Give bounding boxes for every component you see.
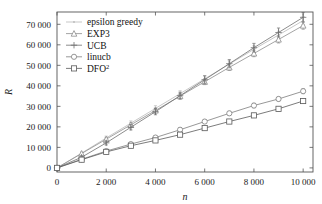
x-tick-label: 2 000 bbox=[96, 177, 117, 187]
marker-square bbox=[251, 113, 256, 118]
y-tick-labels: 010 00020 00030 00040 00050 00060 00070 … bbox=[26, 20, 51, 174]
chart-legend: epsilon greedyEXP3UCBlinucbDFO2 bbox=[66, 17, 143, 73]
legend-item-linucb: linucb bbox=[66, 52, 111, 62]
legend-label: epsilon greedy bbox=[87, 17, 143, 27]
y-tick-label: 30 000 bbox=[26, 102, 51, 112]
marker-plus bbox=[300, 14, 306, 20]
x-tick-label: 0 bbox=[55, 177, 60, 187]
marker-square bbox=[276, 106, 281, 111]
marker-square bbox=[202, 126, 207, 131]
legend-label: DFO2 bbox=[87, 63, 109, 74]
legend-label: EXP3 bbox=[87, 29, 110, 39]
marker-square bbox=[177, 132, 182, 137]
y-tick-label: 50 000 bbox=[26, 61, 51, 71]
y-tick-label: 40 000 bbox=[26, 81, 51, 91]
marker-square bbox=[71, 66, 76, 71]
x-axis-title: n bbox=[183, 191, 188, 202]
series-dfo2 bbox=[54, 98, 305, 170]
marker-square bbox=[79, 157, 84, 162]
marker-square bbox=[153, 138, 158, 143]
marker-circle bbox=[71, 54, 76, 59]
x-tick-label: 8 000 bbox=[244, 177, 265, 187]
marker-plus bbox=[275, 29, 281, 35]
marker-plus bbox=[71, 42, 77, 48]
y-tick-label: 70 000 bbox=[26, 20, 51, 30]
legend-label-superscript: 2 bbox=[106, 63, 109, 70]
x-tick-label: 6 000 bbox=[195, 177, 216, 187]
series-linucb bbox=[54, 89, 305, 171]
marker-square bbox=[54, 165, 59, 170]
marker-circle bbox=[276, 96, 281, 101]
chart-canvas: 010 00020 00030 00040 00050 00060 00070 … bbox=[0, 0, 322, 204]
marker-dot bbox=[73, 21, 75, 23]
legend-label: UCB bbox=[87, 41, 107, 51]
legend-item-epsilon-greedy: epsilon greedy bbox=[66, 17, 143, 27]
marker-square bbox=[301, 98, 306, 103]
y-tick-label: 20 000 bbox=[26, 122, 51, 132]
marker-circle bbox=[227, 111, 232, 116]
marker-square bbox=[227, 119, 232, 124]
marker-circle bbox=[202, 119, 207, 124]
y-axis-title: R bbox=[3, 89, 14, 96]
marker-plus bbox=[128, 124, 134, 130]
marker-circle bbox=[177, 127, 182, 132]
x-tick-labels: 02 0004 0006 0008 00010 000 bbox=[55, 177, 316, 187]
legend-label: linucb bbox=[87, 52, 111, 62]
legend-item-ucb: UCB bbox=[66, 41, 107, 51]
legend-item-exp3: EXP3 bbox=[66, 29, 110, 39]
y-tick-label: 10 000 bbox=[26, 143, 51, 153]
x-tick-label: 4 000 bbox=[145, 177, 166, 187]
marker-triangle bbox=[300, 23, 306, 29]
legend-item-dfo: DFO2 bbox=[66, 63, 109, 74]
marker-square bbox=[104, 149, 109, 154]
marker-plus bbox=[251, 44, 257, 50]
x-tick-label: 10 000 bbox=[291, 177, 316, 187]
marker-square bbox=[128, 143, 133, 148]
y-tick-label: 0 bbox=[47, 163, 52, 173]
marker-circle bbox=[251, 103, 256, 108]
marker-circle bbox=[301, 89, 306, 94]
y-tick-label: 60 000 bbox=[26, 40, 51, 50]
regret-chart-figure: 010 00020 00030 00040 00050 00060 00070 … bbox=[0, 0, 322, 204]
